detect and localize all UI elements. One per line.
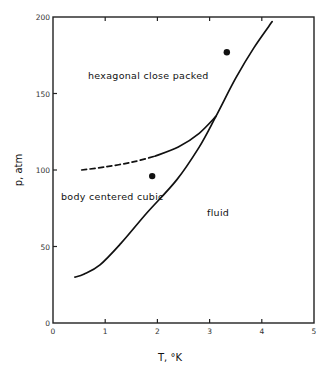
- series-line: [155, 116, 216, 156]
- y-tick-label: 100: [36, 166, 51, 175]
- x-tick-label: 5: [312, 327, 317, 336]
- y-axis-ticks: 050100150200: [36, 13, 57, 328]
- x-tick-label: 0: [51, 327, 56, 336]
- x-tick-label: 3: [207, 327, 212, 336]
- y-tick-label: 50: [40, 243, 50, 252]
- x-tick-label: 2: [155, 327, 160, 336]
- phase-diagram-chart: 012345 050100150200 hexagonal close pack…: [0, 0, 333, 373]
- series-line: [82, 156, 155, 170]
- x-axis-label: T, °K: [157, 352, 182, 363]
- region-label-hcp: hexagonal close packed: [88, 70, 209, 81]
- y-axis-label: p, atm: [13, 154, 24, 187]
- region-label-fluid: fluid: [207, 207, 229, 218]
- x-tick-label: 1: [103, 327, 108, 336]
- x-axis-ticks: 012345: [51, 17, 317, 336]
- y-tick-label: 0: [45, 319, 50, 328]
- y-tick-label: 150: [36, 90, 51, 99]
- region-label-bcc: body centered cubic: [61, 191, 164, 202]
- data-series: [75, 22, 272, 278]
- y-tick-label: 200: [36, 13, 51, 22]
- data-point-marker: [149, 173, 155, 179]
- data-point-marker: [224, 49, 230, 55]
- x-tick-label: 4: [259, 327, 264, 336]
